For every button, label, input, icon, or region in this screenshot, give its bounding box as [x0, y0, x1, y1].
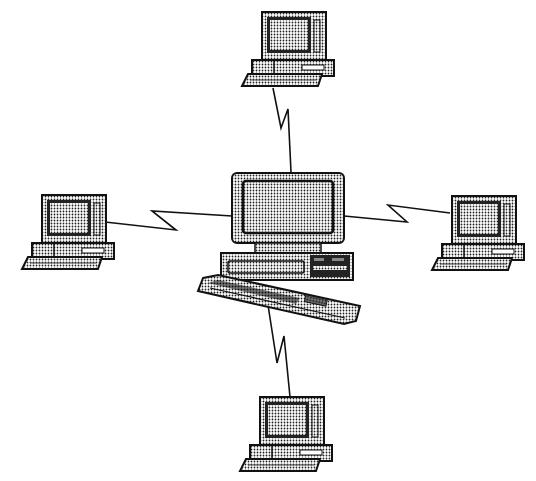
- link-right: [344, 205, 450, 222]
- network-diagram: [0, 0, 536, 481]
- terminal-left: [22, 195, 114, 269]
- terminal-right: [432, 196, 524, 270]
- link-left: [105, 211, 232, 230]
- terminal-top: [242, 12, 334, 86]
- link-bottom: [268, 305, 290, 397]
- link-top: [273, 88, 291, 172]
- central-computer: [198, 173, 360, 324]
- terminal-bottom: [240, 397, 332, 471]
